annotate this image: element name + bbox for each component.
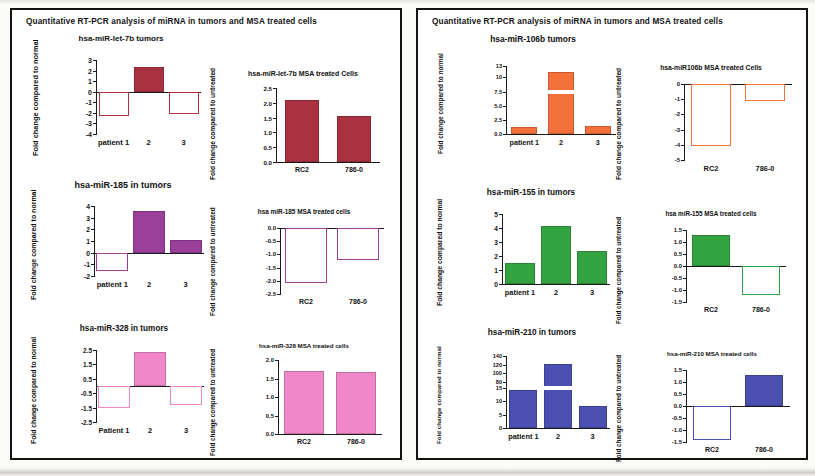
x-tick-label: patient 1 xyxy=(508,432,538,441)
y-axis-label-mir106b_msa: Fold change compared to untreated xyxy=(616,70,623,180)
x-tick-label: 3 xyxy=(596,138,600,147)
x-tick-label: 786-0 xyxy=(755,446,773,453)
bar xyxy=(541,226,571,284)
bar xyxy=(99,92,129,116)
figure-canvas: Quantitative RT-PCR analysis of miRNA in… xyxy=(0,0,815,476)
y-axis-label-let7b_tumors: Fold change compared to normal xyxy=(32,38,40,158)
x-tick-label: RC2 xyxy=(295,166,309,173)
bar xyxy=(134,67,164,91)
y-tick-label: -2 xyxy=(84,273,90,280)
y-tick-label: 13 xyxy=(496,63,502,69)
y-tick-label: 0.0 xyxy=(674,263,682,269)
y-tick xyxy=(503,134,507,135)
y-tick-label: -3 xyxy=(675,127,680,133)
y-tick xyxy=(93,60,97,61)
axis-break-marker xyxy=(508,90,616,94)
x-tick-label: RC2 xyxy=(297,438,311,445)
y-tick xyxy=(93,123,97,124)
y-tick xyxy=(681,145,685,146)
bar xyxy=(745,84,785,101)
x-tick-label: 2 xyxy=(559,138,563,147)
chart-mir155_msa: hsa miR-155 MSA treated cellsFold change… xyxy=(614,208,808,330)
y-tick xyxy=(275,379,279,380)
chart-mir328_msa: hsa-miR-328 MSA treated cellsFold change… xyxy=(208,340,400,460)
y-tick xyxy=(273,88,277,89)
y-tick-label: 0.0 xyxy=(268,225,276,231)
x-tick-label: 2 xyxy=(146,138,150,147)
plot-area-let7b_tumors: 3210-1-2-3-4patient 123 xyxy=(96,60,201,134)
chart-title-let7b_tumors: hsa-miR-let-7b tumors xyxy=(30,34,212,43)
bar xyxy=(585,126,611,134)
y-tick xyxy=(275,397,279,398)
y-tick-label: -1.5 xyxy=(672,439,682,445)
x-tick-label: patient 1 xyxy=(97,280,128,289)
chart-title-mir210_msa: hsa-miR-210 MSA treated cells xyxy=(614,350,810,357)
plot-area-mir155_msa: 1.51.00.50.0-0.5-1.0-1.5RC2786-0 xyxy=(686,230,786,302)
y-tick-label: 2 xyxy=(494,253,498,260)
bar xyxy=(505,263,535,284)
x-tick-label: 2 xyxy=(554,288,558,297)
plot-area-mir155_tumors: 543210patient 123 xyxy=(502,214,610,284)
y-tick xyxy=(277,254,281,255)
y-tick-label: 1.0 xyxy=(674,379,682,385)
y-tick-label: 1.5 xyxy=(674,367,682,373)
x-tick-label: 3 xyxy=(184,426,188,435)
y-tick xyxy=(275,360,279,361)
bar xyxy=(337,228,379,260)
y-axis-label-mir210_tumors: Fold change compared to normal xyxy=(436,332,443,458)
y-tick xyxy=(273,132,277,133)
chart-let7b_msa: hsa-miR-let-7b MSA treated CellsFold cha… xyxy=(208,68,398,183)
y-axis-label-mir185_msa: Fold change compared to untreated xyxy=(210,216,217,316)
x-tick-label: 786-0 xyxy=(752,306,770,313)
panel-left: Quantitative RT-PCR analysis of miRNA in… xyxy=(10,8,402,460)
y-tick xyxy=(93,364,97,365)
y-tick xyxy=(93,134,97,135)
y-tick xyxy=(503,77,507,78)
y-tick-label: -1 xyxy=(675,96,680,102)
x-axis-line xyxy=(278,434,382,435)
y-axis-line xyxy=(276,88,277,162)
y-tick xyxy=(503,356,507,357)
y-tick-label: 120 xyxy=(493,362,502,368)
bar xyxy=(337,116,371,162)
y-axis-label-mir106b_tumors: Fold change compared to normal xyxy=(438,50,445,158)
x-axis-line xyxy=(276,162,380,163)
y-tick xyxy=(91,241,95,242)
plot-area-mir328_tumors: 2.51.50.5-0.5-1.5-2.5Patient 123 xyxy=(96,350,204,422)
y-tick-label: -0.5 xyxy=(672,415,682,421)
bar xyxy=(133,211,165,253)
y-tick xyxy=(503,401,507,402)
chart-title-mir106b_msa: hsa-miR106b MSA treated Cells xyxy=(614,64,808,71)
y-tick xyxy=(503,415,507,416)
y-tick-label: 1.5 xyxy=(263,114,272,121)
y-tick xyxy=(93,393,97,394)
y-tick xyxy=(503,382,507,383)
y-tick-label: -2 xyxy=(675,111,680,117)
y-tick-label: 0.5 xyxy=(674,391,682,397)
y-tick xyxy=(277,241,281,242)
y-tick xyxy=(275,434,279,435)
y-tick-label: 140 xyxy=(493,353,502,359)
x-tick-label: Patient 1 xyxy=(99,426,130,435)
y-axis-line xyxy=(684,84,685,160)
x-tick-label: patient 1 xyxy=(510,138,540,147)
y-tick xyxy=(499,228,503,229)
y-tick-label: 2 xyxy=(88,67,92,74)
y-tick xyxy=(681,114,685,115)
y-tick xyxy=(273,147,277,148)
x-tick-label: 786-0 xyxy=(349,298,367,305)
x-tick-label: patient 1 xyxy=(505,288,535,297)
x-tick-label: RC2 xyxy=(705,446,719,453)
y-tick-label: 0 xyxy=(677,81,680,87)
y-tick xyxy=(275,416,279,417)
bar xyxy=(544,364,572,428)
y-tick xyxy=(499,284,503,285)
y-tick xyxy=(93,92,97,93)
plot-area-mir328_msa: 2.01.51.00.50.0RC2786-0 xyxy=(278,360,382,434)
panel-right-title: Quantitative RT-PCR analysis of miRNA in… xyxy=(432,17,800,26)
y-tick-label: 100 xyxy=(493,370,502,376)
chart-mir155_tumors: hsa-miR-155 in tumorsFold change compare… xyxy=(434,186,628,316)
y-axis-label-let7b_msa: Fold change compared to untreated xyxy=(210,76,217,180)
chart-mir328_tumors: hsa-miR-328 in tumorsFold change compare… xyxy=(28,322,220,454)
y-tick xyxy=(503,120,507,121)
